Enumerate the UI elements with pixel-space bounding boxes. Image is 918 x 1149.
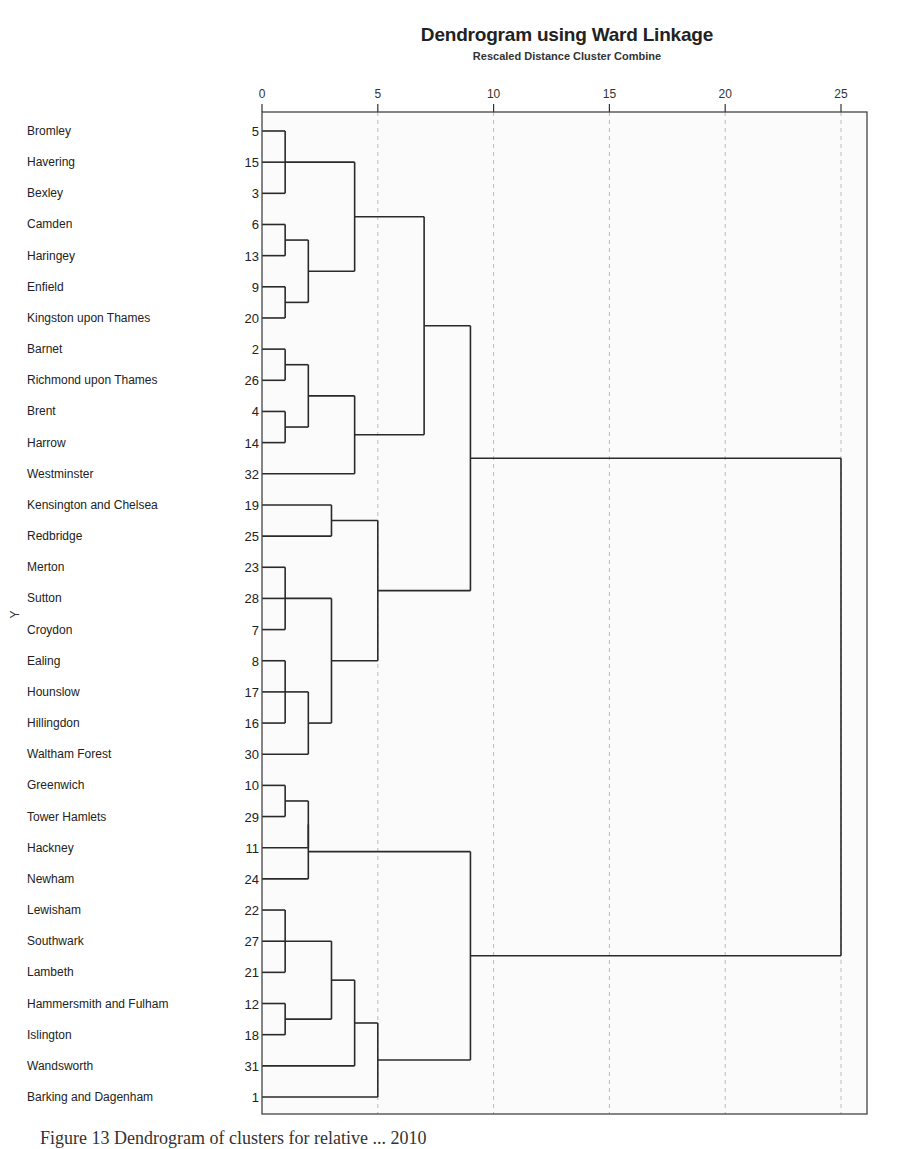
leaf-id: 10 <box>245 778 259 793</box>
x-tick-label: 25 <box>834 87 848 101</box>
leaf-label: Brent <box>27 404 56 418</box>
leaf-label: Havering <box>27 155 75 169</box>
leaf-label: Enfield <box>27 280 64 294</box>
leaf-label: Westminster <box>27 467 93 481</box>
leaf-id: 13 <box>245 249 259 264</box>
leaf-label: Waltham Forest <box>27 747 112 761</box>
leaf-id: 32 <box>245 467 259 482</box>
leaf-label: Sutton <box>27 591 62 605</box>
leaf-label: Tower Hamlets <box>27 810 106 824</box>
leaf-label: Wandsworth <box>27 1059 93 1073</box>
leaf-label: Ealing <box>27 654 60 668</box>
leaf-id: 6 <box>252 217 259 232</box>
leaf-id: 7 <box>252 623 259 638</box>
leaf-label: Merton <box>27 560 64 574</box>
leaf-id: 21 <box>245 965 259 980</box>
leaf-id: 31 <box>245 1059 259 1074</box>
leaf-label: Newham <box>27 872 74 886</box>
leaf-id: 23 <box>245 560 259 575</box>
leaf-label: Lambeth <box>27 965 74 979</box>
leaf-id: 25 <box>245 529 259 544</box>
leaf-label: Bromley <box>27 124 71 138</box>
leaf-label: Kensington and Chelsea <box>27 498 158 512</box>
x-tick-label: 10 <box>487 87 501 101</box>
leaf-label: Camden <box>27 217 72 231</box>
x-tick-label: 5 <box>374 87 381 101</box>
leaf-label: Barking and Dagenham <box>27 1090 153 1104</box>
leaf-label: Islington <box>27 1028 72 1042</box>
leaf-id: 5 <box>252 124 259 139</box>
leaf-id: 19 <box>245 498 259 513</box>
leaf-id: 26 <box>245 373 259 388</box>
leaf-label: Croydon <box>27 623 72 637</box>
leaf-label: Bexley <box>27 186 63 200</box>
dendrogram-plot: 0510152025 Bromley5Havering15Bexley3Camd… <box>0 0 918 1149</box>
figure-caption: Figure 13 Dendrogram of clusters for rel… <box>40 1128 426 1149</box>
leaf-labels: Bromley5Havering15Bexley3Camden6Haringey… <box>27 124 259 1105</box>
leaf-id: 28 <box>245 591 259 606</box>
x-tick-label: 0 <box>259 87 266 101</box>
y-axis-label: Y <box>8 610 22 618</box>
leaf-id: 8 <box>252 654 259 669</box>
leaf-label: Harrow <box>27 436 66 450</box>
leaf-label: Greenwich <box>27 778 84 792</box>
plot-area-background <box>262 112 867 1114</box>
leaf-label: Hammersmith and Fulham <box>27 997 168 1011</box>
leaf-id: 20 <box>245 311 259 326</box>
leaf-label: Redbridge <box>27 529 83 543</box>
x-tick-label: 15 <box>603 87 617 101</box>
leaf-id: 22 <box>245 903 259 918</box>
leaf-id: 27 <box>245 934 259 949</box>
leaf-id: 30 <box>245 747 259 762</box>
leaf-id: 3 <box>252 186 259 201</box>
leaf-label: Kingston upon Thames <box>27 311 150 325</box>
leaf-id: 14 <box>245 436 259 451</box>
leaf-label: Richmond upon Thames <box>27 373 158 387</box>
leaf-id: 12 <box>245 997 259 1012</box>
leaf-label: Hounslow <box>27 685 80 699</box>
leaf-id: 24 <box>245 872 259 887</box>
leaf-label: Lewisham <box>27 903 81 917</box>
leaf-label: Barnet <box>27 342 63 356</box>
leaf-id: 1 <box>252 1090 259 1105</box>
x-axis: 0510152025 <box>259 87 848 112</box>
leaf-label: Southwark <box>27 934 85 948</box>
leaf-label: Hillingdon <box>27 716 80 730</box>
leaf-id: 11 <box>246 841 260 856</box>
x-tick-label: 20 <box>719 87 733 101</box>
leaf-id: 2 <box>252 342 259 357</box>
leaf-id: 9 <box>252 280 259 295</box>
leaf-label: Hackney <box>27 841 74 855</box>
leaf-id: 18 <box>245 1028 259 1043</box>
leaf-label: Haringey <box>27 249 75 263</box>
leaf-id: 15 <box>245 155 259 170</box>
leaf-id: 16 <box>245 716 259 731</box>
leaf-id: 29 <box>245 810 259 825</box>
leaf-id: 17 <box>245 685 259 700</box>
leaf-id: 4 <box>252 404 259 419</box>
